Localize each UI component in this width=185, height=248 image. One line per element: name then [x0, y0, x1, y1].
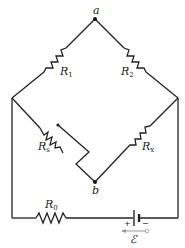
branch-r2 [95, 19, 178, 98]
label-node-b: b [92, 184, 99, 197]
label-r1: R1 [59, 65, 73, 79]
rs-tap [58, 125, 95, 182]
label-node-a: a [93, 4, 100, 17]
label-r0: R0 [44, 198, 58, 212]
circuit-diagram: a b R1 R2 Rs Rx R0 + − ℰ [0, 0, 185, 248]
resistor-r0 [36, 213, 66, 223]
bottom-branch [12, 210, 178, 233]
branch-r1 [12, 19, 95, 98]
label-rs: Rs [37, 140, 50, 154]
label-r2: R2 [120, 65, 134, 79]
label-rx: Rx [141, 140, 154, 154]
branch-rs [12, 98, 95, 182]
node-a [93, 17, 97, 21]
battery-plus: + [124, 219, 131, 228]
battery-minus: − [142, 219, 149, 228]
label-emf: ℰ [130, 233, 138, 246]
branch-rx [95, 98, 178, 182]
